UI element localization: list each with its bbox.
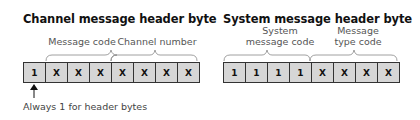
up-arrow-icon [30, 84, 38, 98]
brace-icon [310, 50, 397, 61]
brace-icon [111, 50, 197, 61]
brace-icon [46, 50, 117, 61]
brace-icon [224, 50, 310, 61]
brace-and-arrow-overlay [0, 0, 420, 120]
